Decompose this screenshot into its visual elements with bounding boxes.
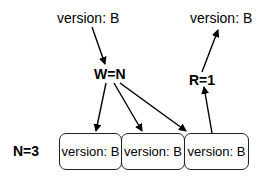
read-quorum-label: R=1: [189, 72, 215, 88]
arrow-input-to-write: [92, 27, 105, 64]
replica-node-label: version: B: [124, 144, 182, 159]
replica-node-3: version: B: [184, 133, 249, 170]
arrow-write-to-replica-2: [114, 83, 142, 131]
replica-node-1: version: B: [59, 133, 122, 170]
write-quorum-label: W=N: [94, 66, 126, 82]
write-input-label: version: B: [57, 10, 119, 26]
read-output-label: version: B: [190, 10, 252, 26]
replica-node-2: version: B: [121, 133, 185, 170]
arrow-write-to-replica-1: [96, 83, 106, 131]
arrow-replica-3-to-read: [204, 87, 212, 133]
arrow-read-to-output: [202, 30, 218, 72]
replica-node-label: version: B: [62, 144, 120, 159]
arrow-write-to-replica-3: [120, 83, 186, 131]
replica-node-label: version: B: [188, 144, 246, 159]
replica-count-label: N=3: [13, 143, 39, 159]
